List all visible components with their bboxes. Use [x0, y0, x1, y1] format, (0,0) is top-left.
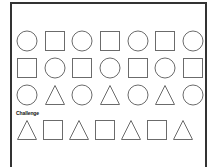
- square-icon: [127, 57, 149, 79]
- circle-icon: [71, 84, 93, 106]
- pattern-row-3: [16, 84, 204, 106]
- square-icon: [71, 57, 93, 79]
- triangle-icon: [172, 119, 194, 141]
- circle-icon: [44, 57, 66, 79]
- pattern-row-1: [16, 30, 204, 52]
- square-icon: [16, 57, 38, 79]
- circle-icon: [182, 84, 204, 106]
- triangle-icon: [44, 84, 66, 106]
- square-icon: [146, 119, 168, 141]
- square-icon: [44, 30, 66, 52]
- circle-icon: [16, 30, 38, 52]
- circle-icon: [127, 84, 149, 106]
- triangle-icon: [99, 84, 121, 106]
- circle-icon: [16, 84, 38, 106]
- triangle-icon: [154, 84, 176, 106]
- square-icon: [154, 30, 176, 52]
- circle-icon: [99, 57, 121, 79]
- square-icon: [42, 119, 64, 141]
- square-icon: [99, 30, 121, 52]
- triangle-icon: [68, 119, 90, 141]
- square-icon: [182, 57, 204, 79]
- square-icon: [94, 119, 116, 141]
- circle-icon: [182, 30, 204, 52]
- circle-icon: [127, 30, 149, 52]
- pattern-row-2: [16, 57, 204, 79]
- triangle-icon: [120, 119, 142, 141]
- circle-icon: [71, 30, 93, 52]
- triangle-icon: [16, 119, 38, 141]
- challenge-row: [16, 119, 194, 141]
- circle-icon: [154, 57, 176, 79]
- challenge-label: Challenge: [16, 110, 39, 116]
